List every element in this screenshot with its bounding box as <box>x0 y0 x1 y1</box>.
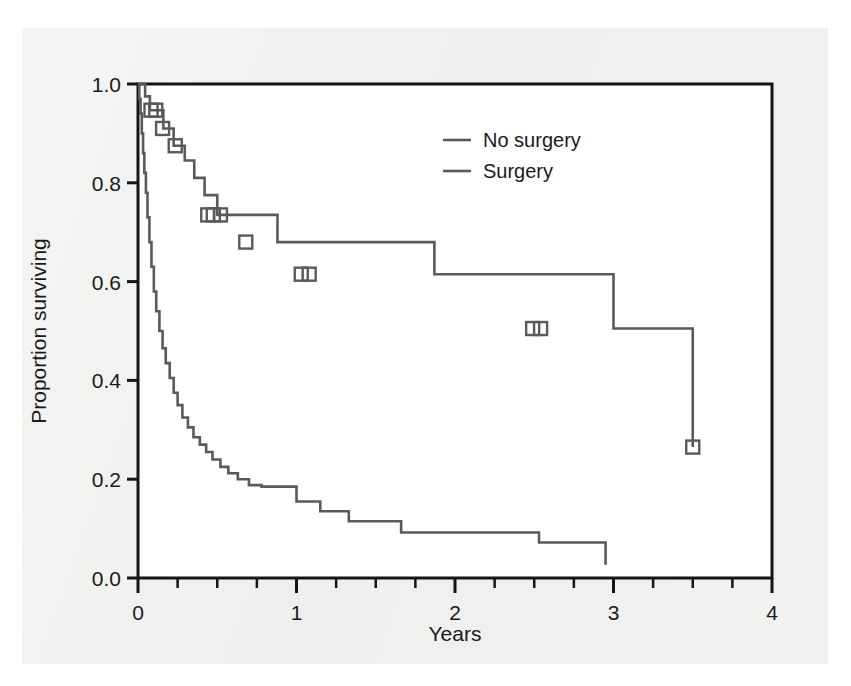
figure-root: 0.00.20.40.60.81.0 01234 Years Proportio… <box>0 0 851 686</box>
x-tick-label: 2 <box>449 601 461 624</box>
y-tick-label: 0.6 <box>92 271 121 294</box>
y-axis-title: Proportion surviving <box>27 238 50 424</box>
y-axis-tick-labels: 0.00.20.40.60.81.0 <box>92 73 122 590</box>
x-tick-label: 0 <box>132 601 144 624</box>
y-tick-label: 0.4 <box>92 369 122 392</box>
legend-label: No surgery <box>483 129 581 151</box>
y-axis-ticks <box>127 84 138 578</box>
plot-area-background <box>138 84 772 578</box>
y-tick-label: 1.0 <box>92 73 121 96</box>
y-tick-label: 0.2 <box>92 468 121 491</box>
x-axis-major-ticks <box>138 578 772 593</box>
legend-label: Surgery <box>483 160 553 182</box>
survival-chart: 0.00.20.40.60.81.0 01234 Years Proportio… <box>0 0 851 686</box>
x-axis-tick-labels: 01234 <box>132 601 778 624</box>
x-axis-title: Years <box>429 622 482 645</box>
x-tick-label: 1 <box>291 601 303 624</box>
y-tick-label: 0.0 <box>92 567 121 590</box>
y-tick-label: 0.8 <box>92 172 121 195</box>
x-tick-label: 4 <box>766 601 778 624</box>
x-tick-label: 3 <box>608 601 620 624</box>
